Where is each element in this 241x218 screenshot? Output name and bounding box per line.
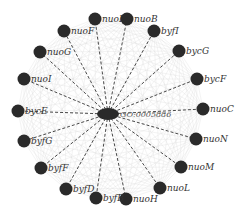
node-byfB[interactable]: byfB bbox=[90, 192, 125, 205]
center-node[interactable] bbox=[97, 108, 119, 120]
node-label: byfG bbox=[31, 136, 52, 146]
node-nuoI[interactable]: nuoI bbox=[18, 73, 53, 86]
node-label: nuoI bbox=[31, 74, 52, 84]
mesh-edge bbox=[160, 109, 203, 188]
node-label: nuoG bbox=[47, 47, 71, 57]
node-circle[interactable] bbox=[35, 162, 48, 175]
node-circle[interactable] bbox=[89, 13, 102, 26]
node-byfG[interactable]: byfG bbox=[18, 135, 53, 148]
node-label: nuoB bbox=[134, 14, 158, 24]
node-nuoN[interactable]: nuoN bbox=[190, 133, 230, 146]
node-label: nuoN bbox=[203, 134, 229, 144]
node-label: nuoF bbox=[71, 26, 95, 36]
node-nuoF[interactable]: nuoF bbox=[58, 25, 96, 38]
node-byfF[interactable]: byfF bbox=[35, 162, 70, 175]
node-circle[interactable] bbox=[190, 133, 203, 146]
node-label: byfD bbox=[73, 184, 94, 194]
node-label: byfB bbox=[103, 193, 124, 203]
node-label: nuoL bbox=[167, 183, 190, 193]
node-label: nuoC bbox=[210, 104, 234, 114]
node-label: bycF bbox=[204, 74, 227, 84]
center-node-group: GO:0005886 bbox=[97, 108, 171, 120]
mesh-edge bbox=[154, 31, 203, 109]
node-byfD[interactable]: byfD bbox=[60, 183, 95, 196]
node-bycE[interactable]: bycE bbox=[12, 105, 48, 118]
node-circle[interactable] bbox=[121, 13, 134, 26]
node-nuoG[interactable]: nuoG bbox=[34, 46, 72, 59]
node-circle[interactable] bbox=[34, 46, 47, 59]
node-circle[interactable] bbox=[173, 45, 186, 58]
node-bycG[interactable]: bycG bbox=[173, 45, 210, 58]
node-circle[interactable] bbox=[154, 182, 167, 195]
node-nuoE[interactable]: nuoE bbox=[89, 13, 127, 26]
node-nuoM[interactable]: nuoM bbox=[175, 161, 216, 174]
node-label: nuoM bbox=[188, 162, 215, 172]
node-circle[interactable] bbox=[60, 183, 73, 196]
node-label: bycG bbox=[186, 46, 209, 56]
node-label: byfI bbox=[161, 26, 179, 36]
node-circle[interactable] bbox=[148, 25, 161, 38]
node-nuoB[interactable]: nuoB bbox=[121, 13, 159, 26]
node-circle[interactable] bbox=[18, 73, 31, 86]
node-nuoH[interactable]: nuoH bbox=[120, 193, 159, 206]
center-node-label: GO:0005886 bbox=[120, 110, 171, 119]
node-circle[interactable] bbox=[58, 25, 71, 38]
node-circle[interactable] bbox=[12, 105, 25, 118]
node-label: nuoH bbox=[133, 194, 158, 204]
node-label: bycE bbox=[25, 106, 48, 116]
network-diagram: GO:0005886 nuoEnuoBbyfIbycGbycFnuoCnuoNn… bbox=[0, 0, 241, 218]
node-byfI[interactable]: byfI bbox=[148, 25, 180, 38]
node-circle[interactable] bbox=[191, 73, 204, 86]
node-nuoL[interactable]: nuoL bbox=[154, 182, 191, 195]
node-nuoC[interactable]: nuoC bbox=[197, 103, 235, 116]
node-circle[interactable] bbox=[175, 161, 188, 174]
node-label: byfF bbox=[48, 163, 69, 173]
node-bycF[interactable]: bycF bbox=[191, 73, 227, 86]
node-circle[interactable] bbox=[197, 103, 210, 116]
node-circle[interactable] bbox=[18, 135, 31, 148]
